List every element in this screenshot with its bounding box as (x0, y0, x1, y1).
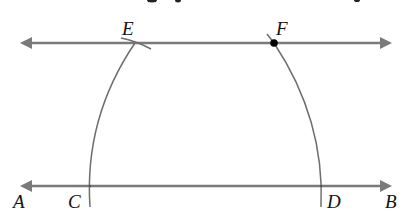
label-e: E (121, 18, 134, 39)
point-c (89, 185, 91, 187)
arc-left (89, 43, 135, 207)
label-f: F (275, 18, 288, 39)
label-b: B (385, 191, 397, 212)
label-a: A (11, 191, 25, 212)
point-f (270, 39, 278, 47)
line-ef (20, 37, 392, 49)
point-d (320, 185, 322, 187)
label-d: D (326, 191, 341, 212)
clipped-caption-fragment (147, 0, 360, 3)
parallel-line-construction-diagram: E F A C D B (0, 0, 411, 218)
arrowhead-left-icon (20, 37, 32, 49)
label-c: C (68, 191, 81, 212)
arc-right (274, 43, 321, 207)
arrowhead-right-icon (380, 37, 392, 49)
